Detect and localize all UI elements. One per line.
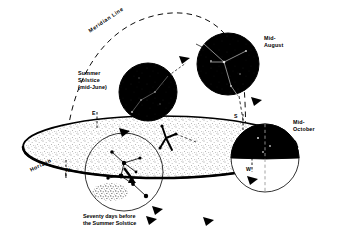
cardinal-point-east: E [92,110,95,116]
arrow-marker-caption-b [146,216,157,225]
figure-caption: Seventy days before the Summer Solstice [83,213,136,228]
summer-solstice-disk [119,63,186,121]
mid-august-label: Mid- August [264,35,283,49]
arrow-marker-caption-a [152,206,163,215]
cardinal-point-north: N [66,167,70,173]
arrow-marker-caption-c [203,217,214,226]
celestial-sphere-diagram: Meridian Line Summer Solstice (mid-June)… [0,0,337,240]
diagram-canvas [0,0,337,240]
arrow-marker-upper-left [179,56,190,64]
cardinal-point-west: W [246,166,251,172]
summer-solstice-label: Summer Solstice (mid-June) [78,70,107,91]
arrow-marker-upper-right [251,97,262,106]
mid-august-disk [196,33,259,120]
mid-october-label: Mid- October [293,119,315,133]
cardinal-point-south: S [234,113,237,119]
mid-october-disk [231,124,299,192]
